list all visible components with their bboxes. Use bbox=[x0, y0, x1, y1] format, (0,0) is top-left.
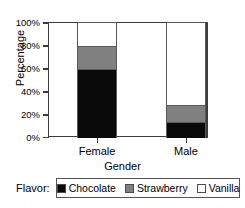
x-tick-label-female: Female bbox=[57, 145, 137, 157]
bar-female-segment-strawberry bbox=[78, 46, 116, 69]
plot-right-border bbox=[206, 22, 208, 138]
legend-swatch-strawberry-icon bbox=[125, 184, 134, 193]
legend-item-chocolate[interactable]: Chocolate bbox=[57, 183, 116, 194]
bar-female-segment-chocolate bbox=[78, 69, 116, 138]
legend-item-vanilla[interactable]: Vanilla bbox=[197, 183, 240, 194]
x-tick-label-male: Male bbox=[146, 145, 226, 157]
legend-swatch-chocolate-icon bbox=[57, 184, 66, 193]
y-tick-label-40: 40% bbox=[0, 87, 40, 96]
x-tick-male bbox=[186, 138, 188, 143]
x-tick-female bbox=[97, 138, 99, 143]
legend-label-strawberry: Strawberry bbox=[137, 183, 188, 194]
legend-label-vanilla: Vanilla bbox=[209, 183, 240, 194]
legend-box: Chocolate Strawberry Vanilla bbox=[56, 178, 241, 198]
legend-title: Flavor: bbox=[16, 182, 50, 194]
y-tick-label-80: 80% bbox=[0, 41, 40, 50]
y-tick-label-60: 60% bbox=[0, 64, 40, 73]
stacked-bar-chart: Percentage 100% 80% 60% 40% 20% 0% Femal… bbox=[0, 0, 245, 208]
legend: Flavor: Chocolate Strawberry Vanilla bbox=[16, 177, 230, 199]
bar-male-segment-chocolate bbox=[167, 122, 205, 138]
x-axis-title: Gender bbox=[0, 160, 245, 172]
legend-item-strawberry[interactable]: Strawberry bbox=[125, 183, 188, 194]
bar-male-segment-strawberry bbox=[167, 105, 205, 122]
bar-male-segment-vanilla bbox=[167, 23, 205, 105]
y-tick-label-0: 0% bbox=[0, 133, 40, 142]
y-tick-label-20: 20% bbox=[0, 110, 40, 119]
bar-female[interactable] bbox=[77, 22, 117, 138]
y-tick-label-100: 100% bbox=[0, 18, 40, 27]
legend-swatch-vanilla-icon bbox=[197, 184, 206, 193]
bar-female-segment-vanilla bbox=[78, 23, 116, 46]
bar-male[interactable] bbox=[166, 22, 206, 138]
legend-label-chocolate: Chocolate bbox=[69, 183, 116, 194]
